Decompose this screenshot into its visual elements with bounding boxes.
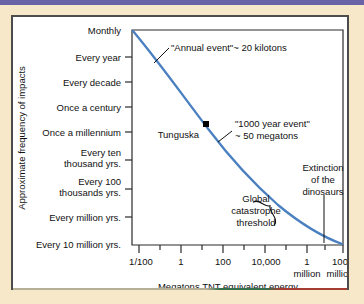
bottom-color-artifact <box>13 288 347 290</box>
extinction-line1: Extinction <box>302 162 343 173</box>
y-tick-label-every-10-million-yrs: Every 10 million yrs. <box>36 239 121 250</box>
figure-panel: Monthly Every year Every decade Once a c… <box>11 15 349 290</box>
thousand-year-event-leader <box>218 131 232 142</box>
y-axis-labels: Monthly Every year Every decade Once a c… <box>36 25 121 250</box>
annual-event-leader <box>154 48 169 63</box>
tunguska-label: Tunguska <box>158 129 200 140</box>
x-tick-label-1-million-line1: 1 <box>304 256 309 267</box>
extinction-line2: of the <box>311 174 335 185</box>
thousand-year-event-annotation-line2: ~ 50 megatons <box>235 130 298 141</box>
y-tick-label-once-a-century: Once a century <box>57 102 122 113</box>
x-tick-label-1: 1 <box>178 256 183 267</box>
y-tick-label-once-a-millennium: Once a millennium <box>42 127 121 138</box>
x-tick-label-1-100: 1/100 <box>129 256 153 267</box>
extinction-line3: dinosaurs <box>302 186 343 197</box>
impact-frequency-chart: Monthly Every year Every decade Once a c… <box>13 17 347 288</box>
y-tick-label-every-ten-thousand-yrs-line2: thousand yrs. <box>64 158 121 169</box>
x-tick-label-10000: 10,000 <box>251 256 280 267</box>
y-tick-label-monthly: Monthly <box>88 25 122 36</box>
x-axis-labels: 1/100 1 100 10,000 1 million 100 million <box>129 256 347 279</box>
y-tick-label-every-ten-thousand-yrs-line1: Every ten <box>81 147 121 158</box>
x-tick-label-100-million-line2: million <box>327 268 347 279</box>
x-tick-label-1-million-line2: million <box>294 268 321 279</box>
y-tick-label-every-decade: Every decade <box>63 77 121 88</box>
y-tick-label-every-100-thousands-yrs-line2: thousands yrs. <box>59 187 121 198</box>
global-catastrophe-line2: catastrophe <box>231 205 281 216</box>
global-catastrophe-line3: threshold <box>236 217 275 228</box>
annual-event-annotation: "Annual event"~ 20 kilotons <box>171 42 287 53</box>
y-axis-title: Approximate frequency of impacts <box>16 66 27 210</box>
x-tick-label-100: 100 <box>215 256 231 267</box>
tunguska-marker <box>203 121 209 127</box>
y-axis-ticks <box>125 57 132 217</box>
y-tick-label-every-million-yrs: Every million yrs. <box>49 212 121 223</box>
thousand-year-event-annotation-line1: "1000 year event" <box>235 118 310 129</box>
x-tick-label-100-million-line1: 100 <box>332 256 347 267</box>
y-tick-label-every-year: Every year <box>76 52 121 63</box>
x-axis-ticks <box>139 245 343 253</box>
x-axis-title: Megatons TNT equivalent energy <box>158 281 298 288</box>
global-catastrophe-line1: Global <box>242 193 269 204</box>
y-tick-label-every-100-thousands-yrs-line1: Every 100 <box>78 176 121 187</box>
